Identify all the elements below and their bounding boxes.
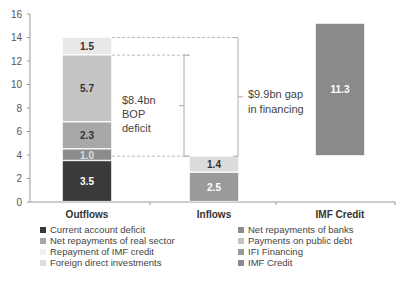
- legend-item-imf-credit: IMF Credit: [238, 257, 292, 268]
- bop-deficit-annotation: BOP: [122, 108, 145, 120]
- y-tick-label: 12: [11, 56, 23, 67]
- legend-item-net-repayments-real-sector: Net repayments of real sector: [40, 235, 175, 246]
- y-tick-label: 14: [11, 32, 23, 43]
- y-tick-label: 8: [16, 103, 22, 114]
- chart-annotations: $8.4bnBOPdeficit$9.9bn gapin financing: [112, 38, 304, 157]
- y-tick-label: 6: [16, 126, 22, 137]
- legend-label: Payments on public debt: [248, 235, 352, 246]
- bop-deficit-annotation: deficit: [122, 122, 151, 134]
- legend-item-fdi: Foreign direct investments: [40, 257, 161, 268]
- legend-item-ifi-financing: IFI Financing: [238, 246, 303, 257]
- segment-value-label: 1.0: [80, 150, 94, 161]
- y-tick-label: 0: [16, 197, 22, 208]
- category-label: IMF Credit: [316, 209, 366, 220]
- y-tick-label: 4: [16, 150, 22, 161]
- bop-bracket: [184, 55, 189, 156]
- legend-swatch: [40, 249, 46, 255]
- legend-swatch: [238, 238, 244, 244]
- segment-value-label: 2.5: [207, 182, 221, 193]
- legend-item-net-repayments-banks: Net repayments of banks: [238, 224, 354, 235]
- legend-label: Current account deficit: [50, 224, 145, 235]
- y-tick-label: 2: [16, 173, 22, 184]
- financing-gap-annotation: $9.9bn gap: [248, 88, 303, 100]
- segment-value-label: 5.7: [80, 83, 94, 94]
- legend-swatch: [238, 249, 244, 255]
- segment-value-label: 11.3: [331, 84, 350, 95]
- legend-label: Foreign direct investments: [50, 257, 161, 268]
- segment-value-label: 2.3: [80, 130, 94, 141]
- legend-item-repayment-imf-credit: Repayment of IMF credit: [40, 246, 154, 257]
- segment-value-label: 1.5: [80, 41, 94, 52]
- category-label: Outflows: [66, 209, 109, 220]
- segment-value-label: 3.5: [80, 176, 94, 187]
- legend-item-current-account-deficit: Current account deficit: [40, 224, 145, 235]
- bop-deficit-annotation: $8.4bn: [122, 94, 156, 106]
- category-label: Inflows: [197, 209, 232, 220]
- y-tick-label: 16: [11, 9, 23, 20]
- legend-label: Repayment of IMF credit: [50, 246, 154, 257]
- legend-label: Net repayments of banks: [248, 224, 354, 235]
- gap-bracket: [233, 38, 238, 157]
- legend-label: IMF Credit: [248, 257, 292, 268]
- legend-item-payments-public-debt: Payments on public debt: [238, 235, 352, 246]
- legend-swatch: [40, 238, 46, 244]
- legend-label: Net repayments of real sector: [50, 235, 175, 246]
- financing-gap-annotation: in financing: [248, 103, 304, 115]
- chart-bars: 3.51.02.35.71.52.51.411.3: [63, 23, 365, 201]
- legend-swatch: [40, 260, 46, 266]
- legend-label: IFI Financing: [248, 246, 303, 257]
- legend-swatch: [238, 227, 244, 233]
- legend-swatch: [238, 260, 244, 266]
- legend-swatch: [40, 227, 46, 233]
- y-tick-label: 10: [11, 79, 23, 90]
- segment-value-label: 1.4: [207, 159, 221, 170]
